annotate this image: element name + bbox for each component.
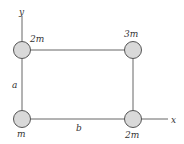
- mass-rectangle-diagram: y x a b 2m 3m m 2m: [0, 0, 184, 144]
- side-a-label: a: [12, 80, 17, 90]
- mass-top-right: [125, 42, 142, 59]
- mass-bottom-right-label: 2m: [124, 130, 139, 140]
- mass-top-right-label: 3m: [124, 29, 138, 39]
- side-b-label: b: [76, 123, 82, 133]
- mass-top-left-label: 2m: [29, 34, 44, 44]
- mass-top-left: [14, 42, 31, 59]
- mass-bottom-right: [125, 111, 142, 128]
- mass-bottom-left: [14, 111, 31, 128]
- y-axis-label: y: [18, 7, 25, 17]
- x-axis-label: x: [171, 115, 176, 125]
- mass-bottom-left-label: m: [17, 129, 26, 139]
